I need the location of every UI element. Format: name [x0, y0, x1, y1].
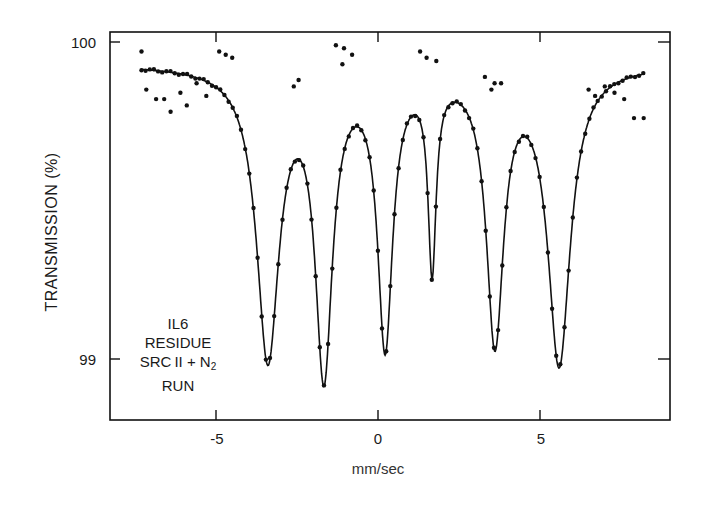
data-point	[521, 134, 525, 138]
data-point	[575, 175, 579, 179]
data-point	[392, 212, 396, 216]
data-point	[608, 84, 612, 88]
data-point	[517, 140, 521, 144]
data-point	[296, 78, 300, 82]
data-point	[562, 325, 566, 329]
data-point	[154, 97, 158, 101]
data-point	[173, 71, 177, 75]
data-point	[144, 87, 148, 91]
data-point	[202, 77, 206, 81]
data-point	[629, 74, 633, 78]
annotation-line: RESIDUE	[140, 333, 217, 352]
data-point	[231, 106, 235, 110]
data-point	[430, 278, 434, 282]
data-point	[224, 53, 228, 57]
data-point	[413, 114, 417, 118]
data-point	[301, 163, 305, 167]
data-point	[401, 138, 405, 142]
data-point	[424, 56, 428, 60]
data-point	[160, 70, 164, 74]
data-point	[177, 73, 181, 77]
data-point	[593, 94, 597, 98]
data-point	[148, 67, 152, 71]
data-point	[293, 159, 297, 163]
data-point	[642, 116, 646, 120]
data-point	[438, 137, 442, 141]
data-point	[384, 349, 388, 353]
fit-curve	[142, 69, 646, 386]
data-point	[251, 206, 255, 210]
data-point	[442, 113, 446, 117]
data-point	[206, 80, 210, 84]
data-point	[616, 81, 620, 85]
data-point	[566, 268, 570, 272]
data-point	[359, 128, 363, 132]
data-point	[276, 262, 280, 266]
data-point	[340, 62, 344, 66]
data-point	[587, 117, 591, 121]
x-tick-label: -5	[210, 430, 223, 447]
data-point	[247, 171, 251, 175]
annotation-line: IL6	[140, 314, 217, 333]
data-point	[533, 156, 537, 160]
data-point	[467, 116, 471, 120]
data-point	[537, 175, 541, 179]
data-point	[351, 126, 355, 130]
data-point	[591, 105, 595, 109]
data-point	[554, 354, 558, 358]
data-point	[479, 179, 483, 183]
data-point	[338, 168, 342, 172]
data-point	[314, 274, 318, 278]
data-point	[168, 69, 172, 73]
data-point	[268, 356, 272, 360]
data-point	[297, 158, 301, 162]
data-point	[226, 100, 230, 104]
data-point	[496, 328, 500, 332]
annotation-line: SRC II + N2	[140, 352, 217, 376]
data-point	[529, 143, 533, 147]
data-point	[326, 342, 330, 346]
data-point	[367, 155, 371, 159]
data-point	[322, 383, 326, 387]
data-point	[289, 167, 293, 171]
annotation-line: RUN	[140, 376, 217, 395]
data-point	[139, 49, 143, 53]
y-tick-label: 99	[79, 351, 96, 368]
data-point	[579, 149, 583, 153]
data-point	[330, 266, 334, 270]
data-point	[363, 138, 367, 142]
data-point	[164, 69, 168, 73]
data-point	[633, 75, 637, 79]
data-point	[604, 89, 608, 93]
data-point	[305, 181, 309, 185]
data-point	[637, 74, 641, 78]
data-point	[197, 76, 201, 80]
data-point	[284, 186, 288, 190]
data-point	[500, 263, 504, 267]
data-point	[492, 81, 496, 85]
data-point	[214, 85, 218, 89]
data-point	[239, 128, 243, 132]
data-point	[210, 84, 214, 88]
data-point	[292, 84, 296, 88]
data-point	[504, 205, 508, 209]
data-point	[434, 204, 438, 208]
data-point	[434, 59, 438, 63]
data-point	[218, 87, 222, 91]
data-point	[143, 69, 147, 73]
data-point	[488, 294, 492, 298]
data-point	[558, 362, 562, 366]
data-point	[255, 256, 259, 260]
data-point	[372, 188, 376, 192]
x-axis-label: mm/sec	[352, 460, 405, 477]
data-point	[178, 91, 182, 95]
data-point	[625, 75, 629, 79]
data-point	[425, 191, 429, 195]
data-point	[622, 97, 626, 101]
data-point	[264, 357, 268, 361]
x-tick-label: 0	[374, 430, 382, 447]
data-point	[418, 49, 422, 53]
data-point	[217, 49, 221, 53]
data-point	[550, 307, 554, 311]
data-point	[546, 250, 550, 254]
